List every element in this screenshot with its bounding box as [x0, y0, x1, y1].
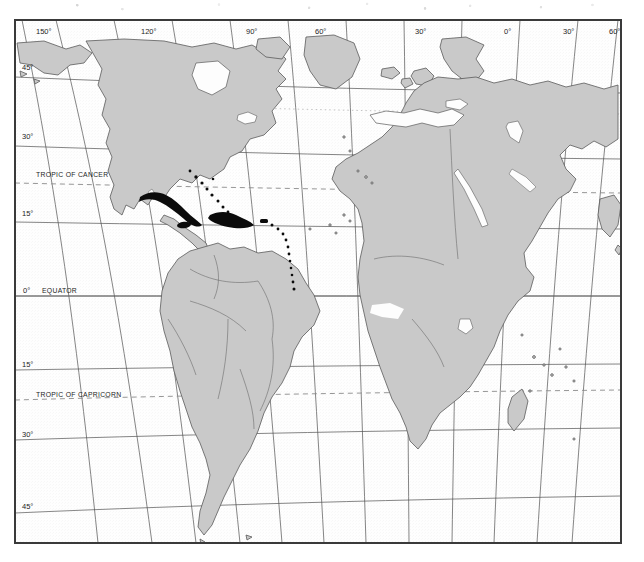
- lat-label-30s: 30°: [22, 430, 33, 439]
- lat-label-15n: 15°: [22, 209, 33, 218]
- lon-label-0: 0°: [504, 27, 511, 36]
- mediterranean-sea: [370, 109, 464, 127]
- lat-label-15s: 15°: [22, 360, 33, 369]
- lat-label-0: 0°: [23, 286, 30, 295]
- scan-artifact-band: [0, 0, 644, 13]
- world-map: 150° 120° 90° 60° 30° 0° 30° 60° 45° 30°…: [14, 19, 622, 544]
- puerto-rico-highlight: [260, 219, 268, 223]
- lat-label-45s: 45°: [22, 502, 33, 511]
- lon-label-60w: 60°: [315, 27, 326, 36]
- lon-label-120w: 120°: [141, 27, 157, 36]
- lon-label-30w: 30°: [415, 27, 426, 36]
- map-canvas: 150° 120° 90° 60° 30° 0° 30° 60° 45° 30°…: [14, 19, 622, 544]
- lat-label-30n: 30°: [22, 132, 33, 141]
- lon-label-60e: 60°: [609, 27, 620, 36]
- equator-label: EQUATOR: [42, 287, 77, 295]
- lat-label-45n: 45°: [22, 63, 33, 72]
- tropic-of-capricorn-label: TROPIC OF CAPRICORN: [36, 391, 121, 398]
- figure-page: 150° 120° 90° 60° 30° 0° 30° 60° 45° 30°…: [0, 0, 644, 562]
- lon-label-150w: 150°: [36, 27, 52, 36]
- lon-label-90w: 90°: [246, 27, 257, 36]
- lon-label-30e: 30°: [563, 27, 574, 36]
- tropic-of-cancer-label: TROPIC OF CANCER: [36, 171, 108, 178]
